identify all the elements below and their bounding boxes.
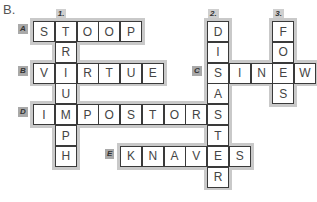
crossword-cell: O (77, 21, 99, 42)
crossword-cell: V (185, 146, 207, 167)
crossword-cell: E (272, 63, 294, 84)
crossword-cell: P (55, 125, 77, 146)
crossword-cell: O (272, 42, 294, 63)
crossword-cell: A (164, 146, 186, 167)
crossword-cell: O (164, 104, 186, 125)
crossword-cell: O (98, 104, 120, 125)
crossword-cell: S (229, 146, 251, 167)
crossword-cell: E (207, 146, 229, 167)
crossword-cell: A (207, 83, 229, 104)
crossword-cell: N (251, 63, 273, 84)
crossword-cell: I (207, 42, 229, 63)
down-clue-label: 1. (56, 9, 67, 18)
across-clue-label: E (105, 149, 114, 159)
crossword-cell: W (294, 63, 316, 84)
crossword-cell: U (55, 83, 77, 104)
crossword-cell: M (55, 104, 77, 125)
crossword-cell: R (77, 63, 99, 84)
crossword-cell: S (207, 63, 229, 84)
part-label: B. (3, 2, 15, 17)
across-clue-label: B (18, 66, 28, 76)
crossword-cell: T (207, 125, 229, 146)
across-clue-label: D (18, 107, 28, 117)
crossword-cell: S (33, 21, 55, 42)
crossword-cell: O (98, 21, 120, 42)
crossword-cell: I (55, 63, 77, 84)
crossword-cell: N (142, 146, 164, 167)
crossword-cell: I (33, 104, 55, 125)
crossword-cell: S (207, 104, 229, 125)
across-clue-label: C (192, 66, 202, 76)
crossword-cell: R (185, 104, 207, 125)
crossword-cell: S (120, 104, 142, 125)
crossword-cell: K (120, 146, 142, 167)
crossword-cell: I (229, 63, 251, 84)
crossword-cell: S (272, 83, 294, 104)
across-clue-label: A (18, 24, 28, 34)
down-clue-label: 2. (208, 9, 219, 18)
crossword-cell: U (120, 63, 142, 84)
crossword-cell: R (55, 42, 77, 63)
crossword-cell: T (55, 21, 77, 42)
down-clue-label: 3. (273, 9, 284, 18)
crossword-cell: P (120, 21, 142, 42)
crossword-cell: V (33, 63, 55, 84)
crossword-cell: R (207, 167, 229, 188)
crossword-cell: F (272, 21, 294, 42)
crossword-cell: E (142, 63, 164, 84)
crossword-cell: T (142, 104, 164, 125)
crossword-cell: H (55, 146, 77, 167)
crossword-cell: D (207, 21, 229, 42)
crossword-cell: P (77, 104, 99, 125)
crossword-cell: T (98, 63, 120, 84)
